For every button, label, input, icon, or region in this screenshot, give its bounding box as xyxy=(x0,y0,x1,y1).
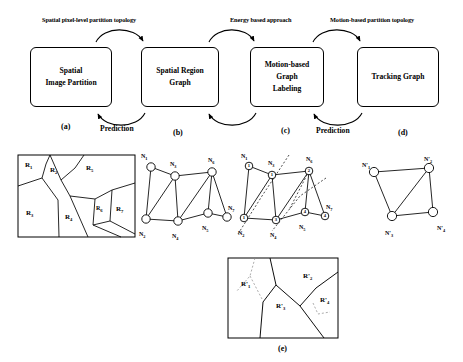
region-e1-base: R' xyxy=(241,280,248,288)
panel-e-region-label-r4p: R'4 xyxy=(320,296,329,305)
panel-e-region-label-r2p: R'2 xyxy=(303,272,312,281)
panel-e-region-label-r1p: R'1 xyxy=(241,280,250,289)
panel-e-region-label-r3p: R'3 xyxy=(276,302,285,311)
region-e4-base: R' xyxy=(320,296,327,304)
figure-root: Spatial pixel-level partition topology E… xyxy=(0,0,463,362)
region-e1-sub: 1 xyxy=(248,284,250,289)
caption-e: (e) xyxy=(278,344,287,353)
region-e3-sub: 3 xyxy=(283,306,285,311)
panel-e-partition-layer xyxy=(0,0,463,362)
region-e4-sub: 4 xyxy=(327,300,329,305)
region-e3-base: R' xyxy=(276,302,283,310)
region-e2-base: R' xyxy=(303,272,310,280)
region-e2-sub: 2 xyxy=(310,276,312,281)
